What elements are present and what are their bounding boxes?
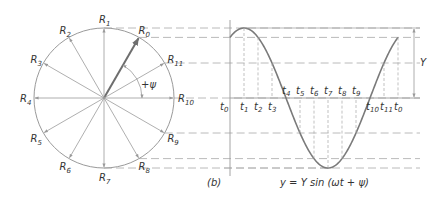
amplitude-label: Y <box>420 57 427 68</box>
phasor-R3 <box>44 64 104 99</box>
phasor-R0 <box>104 38 139 98</box>
time-label-t0: t0 <box>220 101 229 114</box>
phasor-sine-figure: R0R1R2R3R4R5R6R7R8R9R10R11t0t1t2t3t4t5t6… <box>0 0 440 204</box>
phasor-label-R7: R7 <box>99 172 111 186</box>
phasor-label-R11: R11 <box>167 54 183 68</box>
time-label-t3: t3 <box>268 101 276 114</box>
time-label-t8: t8 <box>338 85 347 98</box>
phasor-arrows <box>35 29 173 167</box>
phasor-R2 <box>70 38 105 98</box>
time-label-t5: t5 <box>296 85 305 98</box>
phasor-R9 <box>104 98 164 133</box>
phasor-label-R9: R9 <box>167 133 179 147</box>
figure-canvas: R0R1R2R3R4R5R6R7R8R9R10R11t0t1t2t3t4t5t6… <box>0 0 440 204</box>
time-label-t9: t9 <box>352 85 361 98</box>
phasor-label-R4: R4 <box>20 93 31 107</box>
phase-angle-label: +ψ <box>141 79 156 90</box>
phasor-label-R8: R8 <box>139 161 151 175</box>
phasor-R8 <box>104 98 139 158</box>
time-label-t4: t4 <box>282 85 290 98</box>
phasor-R5 <box>44 98 104 133</box>
time-label-t2: t2 <box>254 101 263 114</box>
time-label-t7: t7 <box>324 85 333 98</box>
equation-caption: y = Y sin (ωt + ψ) <box>279 177 369 188</box>
phasor-label-R0: R0 <box>139 25 151 39</box>
phasor-label-R6: R6 <box>60 161 72 175</box>
phasor-label-R10: R10 <box>178 93 194 107</box>
time-label-t0: t0 <box>394 101 403 114</box>
labels: R0R1R2R3R4R5R6R7R8R9R10R11t0t1t2t3t4t5t6… <box>20 14 403 186</box>
time-label-t6: t6 <box>310 85 319 98</box>
phasor-label-R3: R3 <box>31 54 42 68</box>
phasor-label-R2: R2 <box>60 25 72 39</box>
figure-label: (b) <box>207 177 221 188</box>
time-label-t1: t1 <box>240 101 248 114</box>
phasor-label-R5: R5 <box>31 133 43 147</box>
phasor-R6 <box>70 98 105 158</box>
time-label-t11: t11 <box>380 101 393 114</box>
phasor-label-R1: R1 <box>99 14 110 28</box>
time-label-t10: t10 <box>366 101 379 114</box>
